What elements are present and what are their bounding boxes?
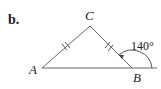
part-label: b. <box>8 12 19 27</box>
arc-arrowhead-icon <box>119 55 124 59</box>
triangle-diagram: b. 140° C A B <box>0 0 161 89</box>
vertex-label-c: C <box>85 8 94 23</box>
angle-value: 140° <box>131 39 154 53</box>
tick-marks-cb <box>105 42 113 51</box>
side-ac <box>42 26 90 68</box>
vertex-label-b: B <box>133 70 141 85</box>
vertex-label-a: A <box>28 62 37 77</box>
